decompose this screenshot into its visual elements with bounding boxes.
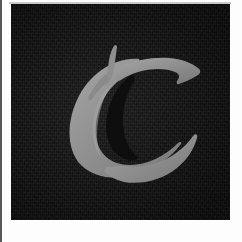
dark-plate — [11, 4, 230, 220]
left-edge-rule — [0, 0, 2, 242]
letter-tile-image — [0, 0, 242, 242]
blackletter-capital-c-icon — [11, 4, 230, 220]
glyph-layer — [11, 4, 230, 220]
